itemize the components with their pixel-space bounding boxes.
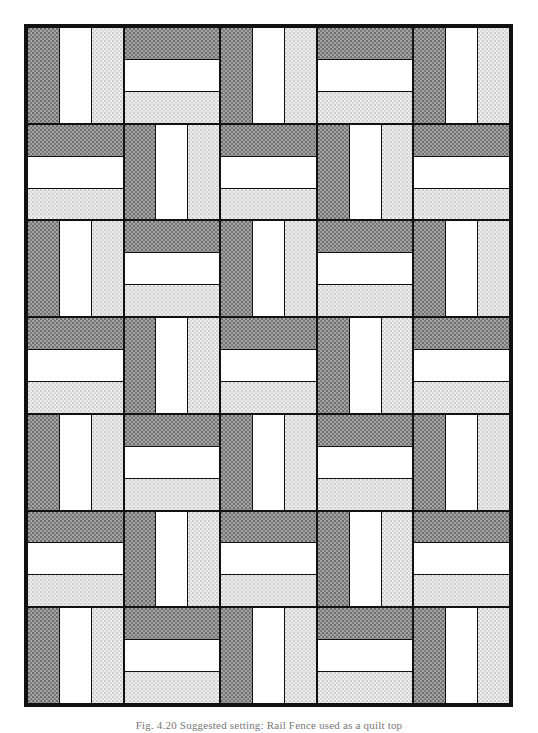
strip-light [318, 671, 413, 703]
strip-white [221, 542, 316, 574]
quilt-block-horizontal [317, 27, 414, 124]
strip-light [414, 381, 509, 413]
quilt-diagram [24, 24, 513, 707]
quilt-block-horizontal [124, 27, 221, 124]
strip-light [284, 415, 316, 510]
strip-white [59, 415, 91, 510]
quilt-block-horizontal [124, 220, 221, 317]
quilt-block-vertical [124, 511, 221, 608]
strip-light [284, 28, 316, 123]
quilt-block-vertical [27, 220, 124, 317]
strip-white [349, 512, 381, 607]
strip-dark [221, 415, 252, 510]
strip-light [381, 318, 413, 413]
strip-light [91, 28, 123, 123]
strip-dark [125, 125, 156, 220]
figure-caption: Fig. 4.20 Suggested setting: Rail Fence … [0, 719, 538, 731]
strip-dark [125, 512, 156, 607]
quilt-block-horizontal [220, 317, 317, 414]
quilt-block-vertical [27, 27, 124, 124]
strip-light [91, 221, 123, 316]
quilt-block-horizontal [413, 317, 510, 414]
quilt-block-horizontal [124, 607, 221, 704]
strip-light [91, 415, 123, 510]
strip-white [445, 608, 477, 703]
strip-white [28, 542, 123, 574]
strip-light [125, 671, 220, 703]
strip-dark [318, 415, 413, 446]
strip-white [252, 415, 284, 510]
quilt-block-vertical [220, 414, 317, 511]
strip-white [445, 28, 477, 123]
strip-white [155, 125, 187, 220]
quilt-block-vertical [317, 317, 414, 414]
quilt-block-vertical [413, 27, 510, 124]
strip-white [414, 542, 509, 574]
strip-dark [28, 125, 123, 156]
strip-light [28, 574, 123, 606]
strip-white [252, 608, 284, 703]
strip-dark [125, 28, 220, 59]
strip-white [125, 446, 220, 478]
quilt-block-vertical [220, 27, 317, 124]
strip-dark [221, 608, 252, 703]
strip-white [445, 221, 477, 316]
strip-white [59, 608, 91, 703]
strip-white [318, 59, 413, 91]
strip-dark [414, 415, 445, 510]
strip-white [221, 349, 316, 381]
strip-light [187, 512, 219, 607]
strip-light [477, 608, 509, 703]
strip-light [221, 188, 316, 220]
strip-dark [28, 318, 123, 349]
strip-light [28, 188, 123, 220]
quilt-block-horizontal [317, 220, 414, 317]
strip-white [318, 639, 413, 671]
strip-light [477, 415, 509, 510]
strip-white [349, 125, 381, 220]
strip-white [59, 28, 91, 123]
strip-dark [318, 608, 413, 639]
quilt-block-horizontal [413, 124, 510, 221]
strip-dark [125, 221, 220, 252]
quilt-block-horizontal [27, 124, 124, 221]
strip-white [221, 156, 316, 188]
strip-white [28, 156, 123, 188]
quilt-block-horizontal [124, 414, 221, 511]
quilt-block-horizontal [220, 124, 317, 221]
strip-light [221, 574, 316, 606]
strip-dark [318, 318, 349, 413]
strip-light [414, 574, 509, 606]
strip-light [414, 188, 509, 220]
strip-dark [28, 608, 59, 703]
strip-dark [318, 221, 413, 252]
strip-light [187, 125, 219, 220]
strip-light [318, 284, 413, 316]
strip-white [252, 28, 284, 123]
strip-dark [221, 125, 316, 156]
quilt-block-vertical [413, 220, 510, 317]
strip-dark [414, 125, 509, 156]
strip-white [125, 59, 220, 91]
quilt-block-horizontal [220, 511, 317, 608]
strip-dark [414, 512, 509, 543]
strip-white [414, 156, 509, 188]
strip-dark [221, 512, 316, 543]
quilt-block-vertical [27, 607, 124, 704]
strip-dark [125, 318, 156, 413]
quilt-block-vertical [317, 124, 414, 221]
strip-light [125, 284, 220, 316]
strip-light [28, 381, 123, 413]
quilt-block-horizontal [413, 511, 510, 608]
quilt-block-vertical [124, 124, 221, 221]
strip-dark [318, 28, 413, 59]
strip-dark [28, 512, 123, 543]
quilt-block-vertical [124, 317, 221, 414]
quilt-block-vertical [413, 414, 510, 511]
strip-dark [414, 608, 445, 703]
strip-dark [318, 125, 349, 220]
strip-white [349, 318, 381, 413]
quilt-block-horizontal [317, 414, 414, 511]
strip-light [284, 608, 316, 703]
strip-white [125, 252, 220, 284]
